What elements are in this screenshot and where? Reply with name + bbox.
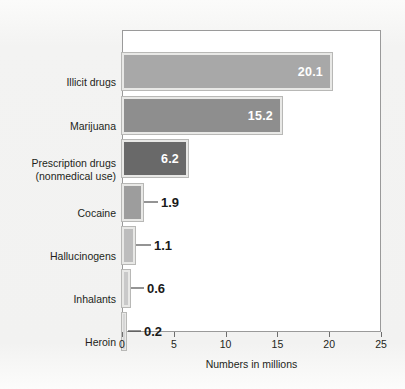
- bar-value-illicit-drugs: 20.1: [298, 65, 323, 79]
- x-tick-5: [174, 332, 175, 337]
- category-label-inhalants: Inhalants: [1, 293, 116, 306]
- leader-line-hallucinogens: [136, 245, 151, 246]
- bar-marijuana: 15.2: [122, 97, 282, 134]
- x-axis-title: Numbers in millions: [122, 358, 381, 370]
- x-tick-25: [381, 332, 382, 337]
- x-tick-10: [226, 332, 227, 337]
- x-tick-20: [329, 332, 330, 337]
- x-tick-label-10: 10: [220, 338, 232, 350]
- x-tick-0: [122, 332, 123, 337]
- x-tick-label-15: 15: [272, 338, 284, 350]
- bar-value-inhalants: 0.6: [147, 281, 165, 296]
- bar-cocaine: [122, 184, 143, 221]
- bar-value-hallucinogens: 1.1: [154, 238, 172, 253]
- plot-area: 20.1 15.2 6.2 1.9 1.1: [122, 30, 381, 332]
- leader-line-inhalants: [131, 288, 144, 289]
- category-label-hallucinogens: Hallucinogens: [1, 250, 116, 263]
- x-tick-15: [277, 332, 278, 337]
- leader-line-cocaine: [144, 202, 158, 203]
- category-axis-labels: Illicit drugs Marijuana Prescription dru…: [0, 30, 116, 332]
- x-tick-label-20: 20: [323, 338, 335, 350]
- x-tick-label-0: 0: [119, 338, 125, 350]
- category-label-heroin: Heroin: [1, 336, 116, 349]
- bar-value-prescription-drugs: 6.2: [161, 152, 179, 166]
- category-label-prescription-drugs: Prescription drugs (nonmedical use): [1, 157, 116, 182]
- category-label-marijuana: Marijuana: [1, 120, 116, 133]
- bar-prescription-drugs: 6.2: [122, 140, 188, 177]
- bar-inhalants: [122, 270, 130, 307]
- bar-illicit-drugs: 20.1: [122, 53, 332, 90]
- category-label-cocaine: Cocaine: [1, 207, 116, 220]
- x-tick-label-25: 25: [375, 338, 387, 350]
- bar-value-cocaine: 1.9: [161, 195, 179, 210]
- bar-hallucinogens: [122, 227, 135, 264]
- bar-chart-figure: Illicit drugs Marijuana Prescription dru…: [0, 0, 405, 389]
- x-tick-label-5: 5: [171, 338, 177, 350]
- bar-value-marijuana: 15.2: [248, 109, 273, 123]
- category-label-illicit-drugs: Illicit drugs: [1, 76, 116, 89]
